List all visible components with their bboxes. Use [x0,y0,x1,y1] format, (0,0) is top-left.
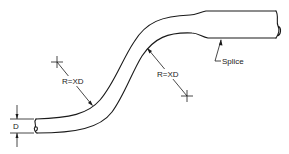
radius-label-right: R=XD [157,70,179,79]
pipe-break-left [34,119,37,133]
radius-lower-right: R=XD [147,48,193,102]
pipe-bend-diagram: D R=XD R=XD Splice [0,0,289,154]
splice-label: Splice [222,57,244,66]
pipe-break-right [276,11,281,38]
diameter-dimension: D [10,105,34,147]
splice-callout: Splice [215,39,244,66]
radius-upper-left: R=XD [51,56,93,106]
diameter-label: D [13,122,19,131]
radius-label-left: R=XD [62,77,84,86]
